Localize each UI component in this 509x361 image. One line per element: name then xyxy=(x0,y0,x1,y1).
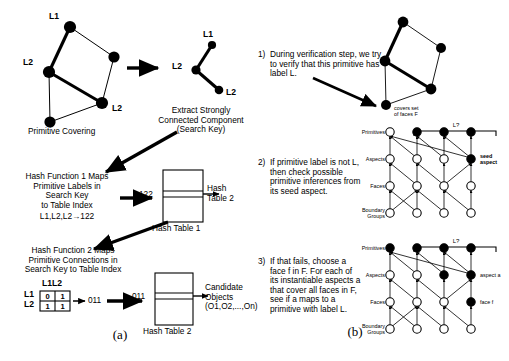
step2-layer-label-aspects: Aspects xyxy=(347,156,385,162)
step2-number: 2) xyxy=(258,158,265,168)
hash1-mapping: L1,L2,L2→122 xyxy=(8,212,126,222)
step3-layer-label-primitives: Primitives xyxy=(347,245,385,251)
hash-table-1-label: Hash Table 1 xyxy=(152,224,200,234)
pc-node-label-l2-right: L2 xyxy=(112,104,122,114)
hash-table-2-box xyxy=(155,273,208,325)
matrix-column-header: L1L2 xyxy=(42,279,62,289)
step3-face-annotation: face f xyxy=(480,299,509,305)
step3-layer-label-faces: Faces xyxy=(347,299,385,305)
sk-node-label-l1: L1 xyxy=(203,30,213,40)
step3-network xyxy=(386,244,496,333)
step1-graph xyxy=(380,17,446,110)
step2-layer-label-faces: Faces xyxy=(347,183,385,189)
hash1-index-value: 122 xyxy=(139,190,153,200)
sk-node-label-l2-end: L2 xyxy=(226,88,236,98)
to-hash1-arrow xyxy=(106,132,177,172)
panel-b-caption: (b) xyxy=(330,327,380,337)
step3-text: If that fails, choose a face f in F. For… xyxy=(270,257,378,315)
step3-layer-label-aspects: Aspects xyxy=(347,272,385,278)
step2-text: If primitive label is not L, then check … xyxy=(270,158,378,196)
step2-layer-label-boundary-groups: Boundary Groups xyxy=(340,207,385,219)
primitive-covering-graph xyxy=(43,21,120,128)
step2-seed-aspect-annotation: seed aspect xyxy=(480,153,508,165)
matrix-cell-0-0: 0 xyxy=(40,292,55,301)
matrix-cell-1-1: 1 xyxy=(55,302,70,311)
pc-node-label-l1: L1 xyxy=(49,12,59,22)
step3-aspect-annotation: aspect a xyxy=(480,272,509,278)
hash2-description: Hash Function 2 Maps Primitive Connectio… xyxy=(3,246,143,275)
step2-network xyxy=(386,128,496,217)
search-key-graph xyxy=(191,41,223,94)
pc-node-label-l2-left: L2 xyxy=(23,58,33,68)
step1-annotation: covers set of faces F xyxy=(394,105,439,117)
panel-a-caption: (a) xyxy=(95,330,145,340)
hash2-index-value-table: 011 xyxy=(132,292,145,302)
step2-layer-label-primitives: Primitives xyxy=(347,129,385,135)
hash1-description: Hash Function 1 Maps Primitive Labels in… xyxy=(8,172,126,210)
matrix-cell-1-0: 1 xyxy=(40,302,55,311)
figure-root: L1 L2 L2 Primitive Covering L1 L2 L2 Ext… xyxy=(0,0,509,361)
step1-number: 1) xyxy=(258,50,265,60)
matrix-cell-0-1: 1 xyxy=(55,292,70,301)
hash-table-2-label: Hash Table 2 xyxy=(143,327,191,337)
hash1-output-label: Hash Table 2 xyxy=(207,184,234,203)
matrix-row-label-l2: L2 xyxy=(24,300,34,310)
step2-bracket-label: L? xyxy=(445,122,467,129)
sk-node-label-l2-center: L2 xyxy=(172,62,182,72)
primitive-covering-title: Primitive Covering xyxy=(28,127,95,137)
hash2-index-value-inline: 011 xyxy=(88,296,101,306)
step1-pointer-arrow xyxy=(313,78,376,106)
step3-number: 3) xyxy=(258,257,265,267)
step1-text: During verification step, we try to veri… xyxy=(270,50,375,79)
hash2-output-label: Candidate Objects (O1,O2,...,On) xyxy=(205,283,258,312)
step3-bracket-label: L? xyxy=(445,238,467,245)
extract-step-text: Extract Strongly Connected Component (Se… xyxy=(146,106,256,135)
